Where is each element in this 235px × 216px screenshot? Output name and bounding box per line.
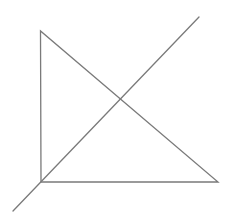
diagram-background [0,0,235,216]
geometry-diagram [0,0,235,216]
